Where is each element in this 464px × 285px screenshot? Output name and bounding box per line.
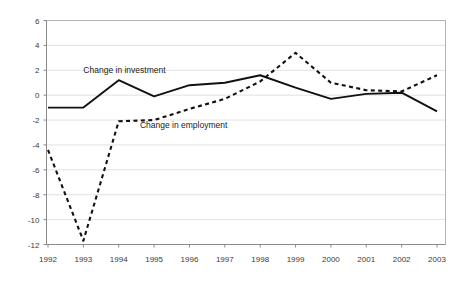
annotation-change-in-investment: Change in investment: [83, 65, 166, 75]
x-axis-tick-label: 1999: [287, 255, 305, 264]
y-axis-tick-label: 2: [35, 66, 40, 75]
x-axis-tick-label: 1996: [181, 255, 199, 264]
y-axis-tick-label: -6: [32, 166, 40, 175]
line-chart: 6420-2-4-6-8-10-12 199219931994199519961…: [0, 0, 464, 285]
x-axis-tick-label: 1997: [216, 255, 234, 264]
y-axis-tick-label: 4: [35, 41, 40, 50]
chart-background: [0, 0, 464, 285]
x-axis-tick-label: 2000: [322, 255, 340, 264]
y-axis-tick-label: -12: [28, 241, 40, 250]
chart-container: 6420-2-4-6-8-10-12 199219931994199519961…: [0, 0, 464, 285]
x-axis-tick-label: 1992: [39, 255, 57, 264]
y-axis-tick-label: -2: [32, 116, 40, 125]
x-axis-tick-label: 1995: [145, 255, 163, 264]
x-axis-tick-label: 2002: [393, 255, 411, 264]
y-axis-tick-label: -4: [32, 141, 40, 150]
x-axis-tick-label: 2001: [357, 255, 375, 264]
annotation-change-in-employment: Change in employment: [140, 120, 228, 130]
x-axis-tick-label: 1998: [251, 255, 269, 264]
y-axis-tick-label: -10: [28, 216, 40, 225]
x-axis-tick-label: 1994: [110, 255, 128, 264]
y-axis-tick-label: 0: [35, 91, 40, 100]
y-axis-tick-label: -8: [32, 191, 40, 200]
x-axis-tick-label: 1993: [74, 255, 92, 264]
x-axis-tick-label: 2003: [428, 255, 446, 264]
y-axis-tick-label: 6: [35, 17, 40, 26]
